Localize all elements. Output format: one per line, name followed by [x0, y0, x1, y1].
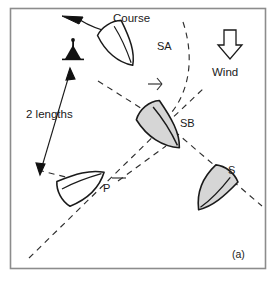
wind-label: Wind — [212, 66, 238, 78]
boat-p-label: P — [103, 182, 110, 194]
sailing-rules-diagram: Course Wind 2 lengths — [0, 0, 276, 283]
panel-label: (a) — [232, 248, 245, 260]
diagram-canvas: Course Wind 2 lengths — [0, 0, 276, 283]
boat-s-label: S — [228, 164, 235, 176]
boat-sa-label: SA — [157, 40, 172, 52]
buoy-base — [62, 59, 84, 61]
buoy-topmark — [71, 38, 75, 42]
boat-sb-label: SB — [180, 117, 195, 129]
two-lengths-label: 2 lengths — [26, 108, 73, 120]
